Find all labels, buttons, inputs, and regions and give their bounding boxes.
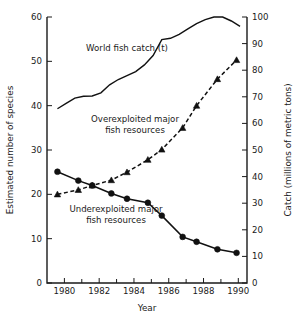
y-axis-right-tick-label: 60 xyxy=(252,118,263,128)
overexploited-label: Overexploited major xyxy=(91,114,179,124)
data-point-marker xyxy=(55,169,61,175)
y-axis-right-tick-label: 90 xyxy=(252,39,263,49)
y-axis-left-tick-label: 60 xyxy=(31,12,42,22)
y-axis-right-title: Catch (millions of metric tons) xyxy=(283,83,293,216)
y-axis-left-tick-label: 10 xyxy=(31,234,42,244)
y-axis-left-tick-label: 50 xyxy=(31,56,42,66)
underexploited-label: fish resources xyxy=(86,215,146,225)
overexploited-label: fish resources xyxy=(105,125,165,135)
y-axis-right-tick-label: 10 xyxy=(252,251,263,261)
y-axis-left-tick-label: 0 xyxy=(37,278,42,288)
data-point-marker xyxy=(89,183,95,189)
x-tick-label: 1980 xyxy=(53,286,75,296)
y-axis-left-tick-label: 20 xyxy=(31,189,42,199)
x-tick-label: 1984 xyxy=(123,286,145,296)
data-point-marker xyxy=(215,246,221,252)
x-tick-label: 1982 xyxy=(88,286,110,296)
y-axis-right-tick-label: 100 xyxy=(252,12,268,22)
underexploited-label: Underexploited major xyxy=(69,204,163,214)
y-axis-left-title: Estimated number of species xyxy=(5,85,15,214)
y-axis-right-tick-label: 80 xyxy=(252,65,263,75)
data-point-marker xyxy=(124,196,130,202)
data-point-marker xyxy=(108,191,114,197)
y-axis-right-tick-label: 70 xyxy=(252,92,263,102)
chart-figure: 198019821984198619881990 0102030405060 0… xyxy=(0,0,302,324)
y-axis-right-tick-label: 50 xyxy=(252,145,263,155)
y-axis-left-tick-label: 40 xyxy=(31,101,42,111)
y-axis-right-tick-label: 20 xyxy=(252,225,263,235)
x-axis-title: Year xyxy=(137,303,157,313)
y-axis-right-tick-label: 40 xyxy=(252,172,263,182)
data-point-marker xyxy=(75,178,81,184)
x-tick-label: 1990 xyxy=(227,286,249,296)
x-tick-label: 1988 xyxy=(193,286,215,296)
y-axis-right-tick-label: 30 xyxy=(252,198,263,208)
data-point-marker xyxy=(194,239,200,245)
x-tick-label: 1986 xyxy=(158,286,180,296)
fisheries-line-chart: 198019821984198619881990 0102030405060 0… xyxy=(0,0,302,324)
data-point-marker xyxy=(234,250,240,256)
y-axis-left-tick-label: 30 xyxy=(31,145,42,155)
world-fish-catch-label: World fish catch (t) xyxy=(86,43,168,53)
data-point-marker xyxy=(180,234,186,240)
y-axis-right-tick-label: 0 xyxy=(252,278,257,288)
